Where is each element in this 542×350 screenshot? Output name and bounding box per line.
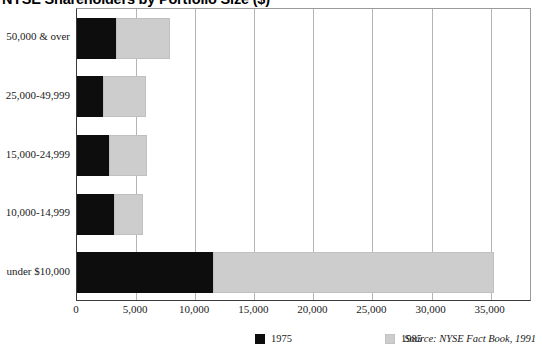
bars-layer	[77, 9, 530, 300]
x-axis-tick-label: 25,000	[356, 303, 386, 315]
x-axis-tick-label: 30,000	[415, 303, 445, 315]
bar-segment-1975	[77, 252, 213, 293]
bar-segment-1985	[213, 252, 494, 293]
bar-segment-1975	[77, 194, 114, 235]
bar-segment-1975	[77, 18, 116, 59]
y-axis-label: 25,000-49,999	[6, 89, 70, 101]
x-axis-tick-label: 10,000	[179, 303, 209, 315]
y-axis-label: under $10,000	[6, 265, 70, 277]
bar-row	[77, 252, 532, 293]
x-axis-tick-label: 15,000	[238, 303, 268, 315]
legend-item-1975[interactable]: 1975	[255, 333, 292, 344]
x-axis-tick-label: 0	[73, 303, 79, 315]
x-axis-tick-label: 35,000	[475, 303, 505, 315]
bar-segment-1985	[114, 194, 144, 235]
bar-row	[77, 135, 532, 176]
y-axis-label: 15,000-24,999	[6, 148, 70, 160]
bar-row	[77, 194, 532, 235]
x-axis-tick-label: 20,000	[297, 303, 327, 315]
bar-segment-1985	[116, 18, 170, 59]
y-axis-label: 10,000-14,999	[6, 206, 70, 218]
x-axis-tick-label: 5,000	[123, 303, 148, 315]
bar-segment-1985	[103, 76, 146, 117]
source-note: Source: NYSE Fact Book, 1991	[404, 333, 536, 344]
bar-row	[77, 18, 532, 59]
y-axis-label: 50,000 & over	[6, 30, 70, 42]
chart-title: NYSE Shareholders by Portfolio Size ($)	[2, 0, 270, 7]
bar-segment-1985	[109, 135, 147, 176]
black-square-swatch	[255, 334, 265, 344]
bar-segment-1975	[77, 135, 109, 176]
x-axis-tick-labels: 05,00010,00015,00020,00025,00030,00035,0…	[76, 303, 531, 319]
y-axis-category-labels: under $10,00010,000-14,99915,000-24,9992…	[0, 8, 76, 301]
chart-container: NYSE Shareholders by Portfolio Size ($) …	[0, 0, 542, 350]
gray-square-swatch	[385, 334, 395, 344]
bar-segment-1975	[77, 76, 103, 117]
bar-row	[77, 76, 532, 117]
legend-label: 1975	[271, 333, 292, 344]
plot-area	[76, 8, 531, 301]
